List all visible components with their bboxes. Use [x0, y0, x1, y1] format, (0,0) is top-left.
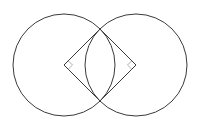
left-right-angle-marker	[68, 61, 72, 69]
right-right-angle-marker	[128, 61, 132, 69]
inscribed-square	[64, 29, 136, 101]
intersecting-circles-diagram	[0, 0, 199, 124]
